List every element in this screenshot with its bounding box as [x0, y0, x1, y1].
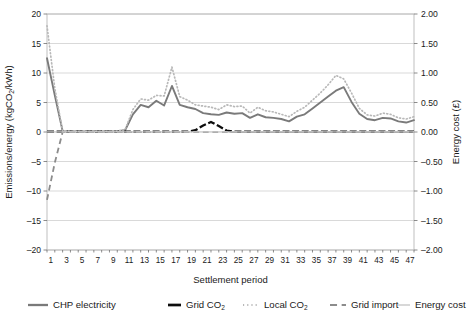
y2-axis-tick-label-2: 1.00 — [421, 68, 438, 78]
x-axis-tick-label-17: 35 — [312, 256, 322, 265]
x-axis-tick-label-5: 11 — [125, 256, 134, 265]
legend-label-grid-co2: Grid CO2 — [186, 299, 225, 311]
x-axis-tick-label-4: 9 — [111, 256, 116, 265]
legend-item-grid-import[interactable]: Grid import — [330, 299, 399, 310]
y-axis-tick-label-6: –10 — [27, 186, 42, 196]
x-axis-tick-label-9: 19 — [187, 256, 197, 265]
y2-axis-tick-label-1: 1.50 — [421, 39, 438, 49]
legend-item-energy-cost[interactable]: Energy cost — [398, 299, 466, 310]
y-axis-tick-label-3: 5 — [36, 98, 41, 108]
x-axis-tick-label-16: 33 — [296, 256, 306, 265]
x-axis-tick-label-1: 3 — [64, 256, 69, 265]
legend-label-text-energy-cost: Energy cost — [415, 299, 466, 310]
x-axis-tick-label-13: 27 — [249, 256, 259, 265]
x-axis-tick-label-21: 43 — [374, 256, 384, 265]
y2-axis-tick-label-5: –0.50 — [421, 157, 443, 167]
y-axis-tick-label-0: 20 — [31, 9, 41, 19]
legend-label-text-local-co2: Local CO — [264, 299, 304, 310]
y2-axis-tick-label-7: –1.50 — [421, 216, 443, 226]
legend-item-grid-co2[interactable]: Grid CO2 — [168, 299, 225, 311]
y-axis-tick-label-1: 15 — [31, 39, 41, 49]
y2-axis-tick-label-8: –2.00 — [421, 245, 443, 255]
x-axis-tick-label-19: 39 — [343, 256, 353, 265]
legend-label-subscript-grid-co2: 2 — [221, 304, 225, 311]
legend-label-text-grid-co2: Grid CO — [186, 299, 221, 310]
legend-label-chp-electricity: CHP electricity — [53, 299, 116, 310]
legend-item-chp-electricity[interactable]: CHP electricity — [28, 299, 116, 310]
x-axis-tick-label-3: 7 — [95, 256, 100, 265]
x-axis-tick-label-6: 13 — [140, 256, 150, 265]
x-axis-tick-label-10: 21 — [203, 256, 213, 265]
legend-label-subscript-local-co2: 2 — [304, 304, 308, 311]
legend-label-energy-cost: Energy cost — [415, 299, 466, 310]
chart-canvas: 20151050–5–10–15–202.001.501.000.500.00–… — [0, 0, 469, 322]
y-axis-tick-label-5: –5 — [31, 157, 41, 167]
y-axis-tick-label-4: 0 — [36, 127, 41, 137]
x-axis-tick-label-23: 47 — [406, 256, 416, 265]
legend-label-grid-import: Grid import — [351, 299, 399, 310]
y-axis-title-post: /kWh) — [3, 65, 14, 90]
x-axis-tick-label-22: 45 — [390, 256, 400, 265]
y2-axis-tick-label-4: 0.00 — [421, 127, 438, 137]
y2-axis-tick-label-6: –1.00 — [421, 186, 443, 196]
legend-label-text-grid-import: Grid import — [351, 299, 399, 310]
x-axis-tick-label-0: 1 — [49, 256, 54, 265]
x-axis-tick-label-18: 37 — [327, 256, 337, 265]
x-axis-tick-label-2: 5 — [80, 256, 85, 265]
x-axis-tick-label-15: 31 — [281, 256, 291, 265]
x-axis-tick-label-8: 17 — [171, 256, 181, 265]
legend-item-local-co2[interactable]: Local CO2 — [243, 299, 308, 311]
legend-label-local-co2: Local CO2 — [264, 299, 308, 311]
y-axis-title-pre: Emissions/energy (kgCO — [3, 94, 14, 199]
y2-axis-tick-label-0: 2.00 — [421, 9, 438, 19]
emissions-energy-chart: 20151050–5–10–15–202.001.501.000.500.00–… — [0, 0, 469, 322]
legend-label-text-chp-electricity: CHP electricity — [53, 299, 116, 310]
chart-legend: CHP electricityGrid CO2Local CO2Grid imp… — [28, 299, 466, 311]
y-axis-tick-label-2: 10 — [31, 68, 41, 78]
x-axis-tick-label-20: 41 — [359, 256, 369, 265]
x-axis-tick-label-7: 15 — [156, 256, 166, 265]
x-axis-tick-label-11: 23 — [218, 256, 228, 265]
y-axis-tick-label-8: –20 — [27, 245, 42, 255]
y2-axis-tick-label-3: 0.50 — [421, 98, 438, 108]
x-axis-tick-label-14: 29 — [265, 256, 275, 265]
x-axis-title: Settlement period — [193, 274, 267, 285]
y-axis-tick-label-7: –15 — [27, 216, 42, 226]
y2-axis-title: Energy cost (£) — [450, 100, 461, 164]
y-axis-title: Emissions/energy (kgCO2/kWh) — [3, 65, 15, 199]
x-axis-tick-label-12: 25 — [234, 256, 244, 265]
